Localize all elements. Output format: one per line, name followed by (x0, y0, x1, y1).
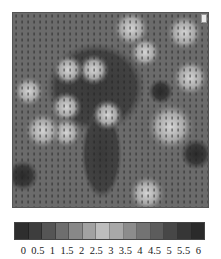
colorbar-cell (137, 223, 151, 239)
colorbar-tick-label: 4 (137, 245, 142, 257)
colorbar-tick-label: 0 (21, 245, 26, 257)
heatmap-plot (12, 12, 209, 208)
colorbar-cell (15, 223, 29, 239)
colorbar-tick-label: 6 (196, 245, 201, 257)
corner-marker (201, 14, 207, 23)
colorbar-tick-label: 1.5 (60, 245, 73, 257)
colorbar-cell (96, 223, 110, 239)
colorbar-cell (83, 223, 97, 239)
colorbar-cell (69, 223, 83, 239)
colorbar-tick-label: 2.5 (90, 245, 103, 257)
colorbar-cell (124, 223, 138, 239)
heatmap-field (13, 13, 209, 208)
colorbar-tick-labels: 00.511.522.533.544.555.56 (14, 245, 205, 259)
colorbar-tick-label: 5.5 (177, 245, 190, 257)
colorbar (14, 222, 205, 240)
colorbar-cell (110, 223, 124, 239)
colorbar-tick-label: 3.5 (119, 245, 132, 257)
colorbar-cell (178, 223, 192, 239)
colorbar-tick-label: 5 (166, 245, 171, 257)
colorbar-tick-label: 0.5 (31, 245, 44, 257)
colorbar-tick-label: 2 (79, 245, 84, 257)
colorbar-cell (29, 223, 43, 239)
colorbar-cell (42, 223, 56, 239)
colorbar-cell (192, 223, 205, 239)
colorbar-tick-label: 3 (108, 245, 113, 257)
colorbar-tick-label: 4.5 (148, 245, 161, 257)
colorbar-cell (56, 223, 70, 239)
colorbar-cell (164, 223, 178, 239)
colorbar-tick-label: 1 (50, 245, 55, 257)
colorbar-cell (151, 223, 165, 239)
